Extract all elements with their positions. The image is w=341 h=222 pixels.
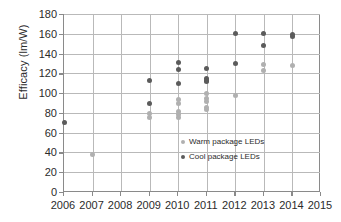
x-gridline xyxy=(292,14,293,191)
y-tick-label: 60 xyxy=(23,128,57,139)
y-tick-label: 180 xyxy=(23,9,57,20)
data-point-cool xyxy=(204,79,209,84)
data-point-cool xyxy=(176,67,181,72)
data-point-warm xyxy=(204,91,209,96)
x-tick-mark xyxy=(120,192,121,196)
data-point-cool xyxy=(261,31,266,36)
data-point-cool xyxy=(290,34,295,39)
x-tick-mark xyxy=(291,192,292,196)
data-point-cool xyxy=(147,101,152,106)
x-gridline xyxy=(93,14,94,191)
y-tick-label: 40 xyxy=(23,147,57,158)
data-point-cool xyxy=(233,61,238,66)
x-gridline xyxy=(264,14,265,191)
legend-marker-warm-icon xyxy=(181,140,185,144)
y-tick-label: 160 xyxy=(23,29,57,40)
y-gridline xyxy=(64,113,320,114)
data-point-warm xyxy=(290,63,295,68)
legend-label-warm: Warm package LEDs xyxy=(189,137,264,146)
legend-label-cool: Cool package LEDs xyxy=(189,152,260,161)
data-point-warm xyxy=(261,62,266,67)
efficacy-scatter-chart: Efficacy (lm/W) 020406080100120140160180… xyxy=(0,0,341,222)
x-gridline xyxy=(121,14,122,191)
data-point-warm xyxy=(261,68,266,73)
data-point-warm xyxy=(204,107,209,112)
plot-border-right xyxy=(319,14,320,191)
y-tick-label: 20 xyxy=(23,167,57,178)
x-tick-label: 2015 xyxy=(300,200,340,211)
data-point-cool xyxy=(176,60,181,65)
y-gridline xyxy=(64,172,320,173)
data-point-cool xyxy=(176,81,181,86)
y-tick-label: 0 xyxy=(23,187,57,198)
x-tick-mark xyxy=(263,192,264,196)
data-point-cool xyxy=(233,31,238,36)
x-tick-mark xyxy=(63,192,64,196)
data-point-cool xyxy=(261,43,266,48)
x-tick-mark xyxy=(149,192,150,196)
y-gridline xyxy=(64,93,320,94)
y-tick-label: 80 xyxy=(23,108,57,119)
x-gridline xyxy=(235,14,236,191)
legend-item-cool: Cool package LEDs xyxy=(181,149,264,164)
data-point-warm xyxy=(147,115,152,120)
y-tick-label: 100 xyxy=(23,88,57,99)
legend-item-warm: Warm package LEDs xyxy=(181,134,264,149)
y-gridline xyxy=(64,14,320,15)
plot-area xyxy=(63,14,320,192)
y-gridline xyxy=(64,34,320,35)
data-point-cool xyxy=(62,120,67,125)
chart-legend: Warm package LEDs Cool package LEDs xyxy=(181,134,264,164)
data-point-warm xyxy=(204,99,209,104)
data-point-warm xyxy=(176,115,181,120)
data-point-warm xyxy=(90,152,95,157)
y-tick-label: 120 xyxy=(23,68,57,79)
legend-marker-cool-icon xyxy=(181,155,185,159)
data-point-cool xyxy=(147,78,152,83)
x-tick-mark xyxy=(177,192,178,196)
data-point-warm xyxy=(176,101,181,106)
data-point-cool xyxy=(204,66,209,71)
y-tick-label: 140 xyxy=(23,49,57,60)
x-tick-mark xyxy=(206,192,207,196)
x-tick-mark xyxy=(234,192,235,196)
x-tick-mark xyxy=(320,192,321,196)
y-gridline xyxy=(64,73,320,74)
x-tick-mark xyxy=(92,192,93,196)
y-gridline xyxy=(64,54,320,55)
data-point-warm xyxy=(233,93,238,98)
